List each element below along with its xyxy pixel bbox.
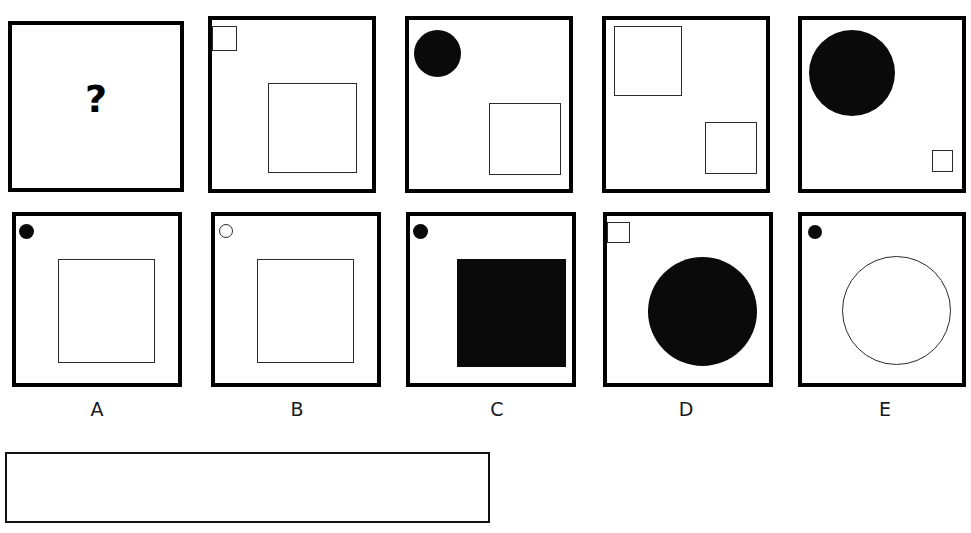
- option-label-a: A: [77, 398, 117, 420]
- small-outline-dot-icon: [219, 224, 233, 238]
- option-label-b: B: [277, 398, 317, 420]
- filled-circle-top-left-icon: [414, 30, 461, 77]
- square-bottom-right-icon: [489, 103, 561, 175]
- large-square-outline-icon: [257, 259, 354, 363]
- context-panel-4: [602, 16, 770, 193]
- small-square-bottom-right-icon: [705, 122, 757, 174]
- small-filled-dot-icon: [19, 224, 34, 239]
- large-square-top-left-icon: [614, 26, 682, 96]
- context-panel-2: [208, 16, 376, 193]
- large-square-center-right-icon: [268, 83, 357, 173]
- context-panel-5: [798, 16, 966, 193]
- context-panel-2-inner: [212, 20, 372, 189]
- context-panel-3-inner: [409, 20, 569, 189]
- option-panel-d[interactable]: [603, 212, 773, 387]
- option-panel-b[interactable]: [211, 212, 381, 387]
- analogy-puzzle: ?: [0, 0, 971, 533]
- option-label-c: C: [477, 398, 517, 420]
- option-panel-a-inner: [16, 216, 178, 383]
- large-square-filled-icon: [457, 259, 566, 367]
- question-panel: ?: [8, 21, 184, 192]
- small-square-top-left-icon: [212, 26, 237, 51]
- small-filled-dot-icon: [413, 224, 428, 239]
- option-panel-e-inner: [802, 216, 962, 383]
- context-panel-5-inner: [802, 20, 962, 189]
- option-label-e: E: [865, 398, 905, 420]
- option-panel-e[interactable]: [798, 212, 966, 387]
- large-outline-circle-icon: [842, 256, 951, 365]
- answer-input-box[interactable]: [5, 452, 490, 523]
- large-filled-circle-top-left-icon: [809, 30, 895, 116]
- large-filled-circle-icon: [648, 257, 757, 366]
- option-panel-a[interactable]: [12, 212, 182, 387]
- context-panel-3: [405, 16, 573, 193]
- question-panel-inner: ?: [12, 25, 180, 188]
- question-mark-glyph: ?: [12, 25, 180, 188]
- tiny-square-bottom-right-icon: [932, 150, 953, 172]
- option-label-d: D: [666, 398, 706, 420]
- large-square-outline-icon: [58, 259, 155, 363]
- context-panel-4-inner: [606, 20, 766, 189]
- small-filled-dot-icon: [808, 225, 822, 239]
- option-panel-c[interactable]: [406, 212, 576, 387]
- small-square-top-left-icon: [607, 222, 630, 243]
- option-panel-c-inner: [410, 216, 572, 383]
- option-panel-b-inner: [215, 216, 377, 383]
- option-panel-d-inner: [607, 216, 769, 383]
